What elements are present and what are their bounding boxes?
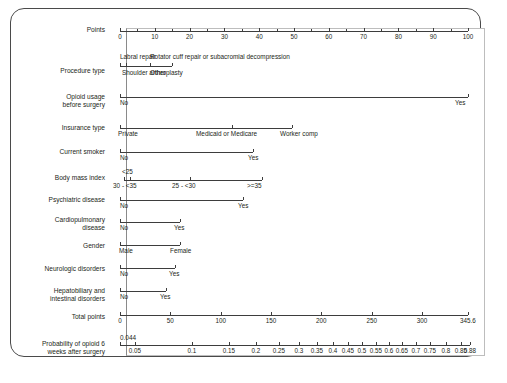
points-tick-80 [398, 28, 399, 31]
row-label-current-smoker: Current smoker [0, 148, 105, 156]
opioid-usage-tick-no [120, 94, 121, 97]
psychiatric-axis-line [120, 200, 243, 201]
probability-tick-0.2 [256, 342, 257, 345]
bmi-axis-line [124, 180, 262, 181]
probability-tick-label-0.1: 0.1 [188, 347, 197, 354]
insurance-tick-worker [292, 125, 293, 128]
bmi-label-under25: <25 [122, 168, 133, 175]
probability-tick-0.75 [430, 342, 431, 345]
procedure-label-rotator-cuff: Rotator cuff repair or subacromial decom… [150, 53, 290, 60]
row-label-probability: Probability of opioid 6 weeks after surg… [0, 340, 105, 356]
probability-tick-label-0.7: 0.7 [412, 347, 421, 354]
probability-tick-label-0.05: 0.05 [129, 347, 141, 354]
opioid-usage-label-yes: Yes [455, 99, 465, 106]
opioid-usage-tick-yes [468, 94, 469, 97]
row-label-body-mass-index: Body mass index [0, 174, 105, 182]
probability-tick-0.4 [333, 342, 334, 345]
probability-tick-label-0.2: 0.2 [252, 347, 261, 354]
probability-tick-0.45 [348, 342, 349, 345]
row-label-insurance-type: Insurance type [0, 124, 105, 132]
points-tick-label-100: 100 [463, 33, 474, 40]
psychiatric-label-yes: Yes [238, 202, 248, 209]
total-points-tick-label-250: 250 [366, 317, 377, 324]
points-minor-tick-55 [311, 29, 312, 31]
points-tick-label-50: 50 [290, 33, 297, 40]
points-tick-label-70: 70 [360, 33, 367, 40]
total-points-tick-label-150: 150 [266, 317, 277, 324]
insurance-label-private: Private [118, 130, 138, 137]
opioid-usage-label-no: No [120, 99, 128, 106]
row-label-hepatobiliary: Hepatobiliary and intestinal disorders [0, 287, 105, 303]
row-label-psychiatric-disease: Psychiatric disease [0, 196, 105, 204]
hepatobiliary-label-yes: Yes [160, 293, 170, 300]
points-minor-tick-95 [451, 29, 452, 31]
points-tick-50 [294, 28, 295, 31]
cardiopulmonary-tick-no [120, 219, 121, 222]
points-minor-tick-35 [242, 29, 243, 31]
hepatobiliary-tick-no [120, 288, 121, 291]
points-tick-0 [120, 28, 121, 31]
nomogram-plot-frame [126, 28, 485, 356]
probability-tick-label-0.3: 0.3 [295, 347, 304, 354]
points-tick-40 [259, 28, 260, 31]
neurologic-tick-yes [175, 265, 176, 268]
probability-tick-label-0.8: 0.8 [442, 347, 451, 354]
procedure-tick-2 [150, 63, 151, 66]
probability-tick-0.05 [135, 342, 136, 345]
points-minor-tick-65 [346, 29, 347, 31]
bmi-tick-1 [130, 177, 131, 180]
points-tick-label-10: 10 [151, 33, 158, 40]
cardiopulmonary-label-no: No [120, 224, 128, 231]
row-label-opioid-usage: Opioid usage before surgery [0, 93, 105, 109]
current-smoker-label-yes: Yes [248, 154, 258, 161]
hepatobiliary-axis-line [120, 291, 166, 292]
probability-tick-0.3 [299, 342, 300, 345]
total-points-tick-150 [271, 312, 272, 315]
points-tick-90 [433, 28, 434, 31]
insurance-label-worker-comp: Worker comp [280, 130, 318, 137]
total-points-tick-300 [422, 312, 423, 315]
points-tick-label-30: 30 [221, 33, 228, 40]
points-tick-10 [155, 28, 156, 31]
probability-label-min: 0.044 [120, 334, 136, 341]
probability-tick-label-0.55: 0.55 [370, 347, 382, 354]
points-minor-tick-75 [381, 29, 382, 31]
total-points-tick-label-200: 200 [316, 317, 327, 324]
points-tick-20 [190, 28, 191, 31]
insurance-tick-private [120, 125, 121, 128]
probability-tick-0.55 [376, 342, 377, 345]
current-smoker-tick-yes [253, 149, 254, 152]
total-points-tick-label-300: 300 [417, 317, 428, 324]
points-minor-tick-5 [137, 29, 138, 31]
neurologic-label-no: No [120, 270, 128, 277]
total-points-tick-200 [321, 312, 322, 315]
neurologic-tick-no [120, 265, 121, 268]
points-tick-label-80: 80 [395, 33, 402, 40]
points-minor-tick-45 [277, 29, 278, 31]
probability-tick-0.65 [402, 342, 403, 345]
neurologic-axis-line [120, 268, 175, 269]
total-points-tick-50 [170, 312, 171, 315]
row-label-neurologic-disorders: Neurologic disorders [0, 265, 105, 273]
points-tick-label-90: 90 [430, 33, 437, 40]
probability-tick-0.35 [317, 342, 318, 345]
bmi-label-25-30: 25 - <30 [172, 182, 196, 189]
points-tick-60 [329, 28, 330, 31]
probability-tick-0.5 [362, 342, 363, 345]
row-label-procedure-type: Procedure type [0, 67, 105, 75]
current-smoker-axis-line [120, 152, 253, 153]
total-points-tick-0 [120, 312, 121, 315]
points-tick-label-0: 0 [118, 33, 122, 40]
probability-tick-label-0.5: 0.5 [358, 347, 367, 354]
insurance-tick-medicaid [232, 125, 233, 128]
probability-tick-label-0.4: 0.4 [329, 347, 338, 354]
points-minor-tick-25 [207, 29, 208, 31]
total-points-tick-345.6 [468, 312, 469, 315]
probability-tick-label-0.75: 0.75 [424, 347, 436, 354]
probability-tick-label-0.6: 0.6 [385, 347, 394, 354]
bmi-tick-0 [124, 177, 125, 180]
gender-label-male: Male [119, 247, 133, 254]
bmi-label-30-35: 30 - <35 [113, 182, 137, 189]
total-points-tick-label-100: 100 [215, 317, 226, 324]
points-axis-line [120, 31, 468, 32]
